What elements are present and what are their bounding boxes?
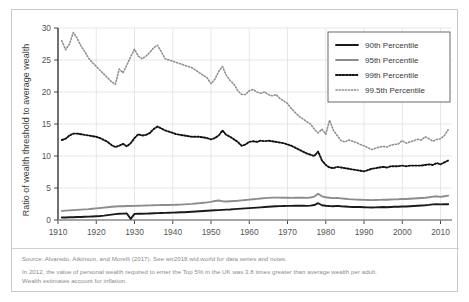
x-tick-label: 1960 bbox=[240, 227, 259, 237]
y-axis-ticks: 051015202530 bbox=[42, 23, 58, 225]
x-axis-ticks: 1910192019301940195019601970198019902000… bbox=[49, 220, 450, 237]
series-line-3 bbox=[62, 127, 448, 172]
x-tick-label: 2000 bbox=[393, 227, 412, 237]
footer-note-line-2: Wealth estimates account for inflation. bbox=[22, 276, 449, 286]
y-tick-label: 20 bbox=[42, 87, 52, 97]
x-tick-label: 1910 bbox=[49, 227, 68, 237]
footer-source: Source: Alvaredo, Atkinson, and Morelli … bbox=[22, 254, 449, 264]
chart-plot-area: 051015202530 191019201930194019501960197… bbox=[12, 10, 459, 250]
y-tick-label: 25 bbox=[42, 55, 52, 65]
x-tick-label: 1970 bbox=[278, 227, 297, 237]
footer-note-line-1: In 2012, the value of personal wealth re… bbox=[22, 267, 449, 277]
x-tick-label: 1980 bbox=[316, 227, 335, 237]
x-tick-label: 2010 bbox=[431, 227, 450, 237]
legend-label-2[interactable]: 95th Percentile bbox=[365, 56, 419, 65]
y-tick-label: 10 bbox=[42, 151, 52, 161]
legend-label-3[interactable]: 99th Percentile bbox=[365, 71, 419, 80]
legend-label-1[interactable]: 90th Percentile bbox=[365, 41, 419, 50]
y-tick-label: 5 bbox=[46, 183, 51, 193]
wealth-ratio-line-chart: 051015202530 191019201930194019501960197… bbox=[12, 10, 459, 250]
legend-label-4[interactable]: 99.5th Percentile bbox=[365, 86, 426, 95]
chart-legend[interactable]: 90th Percentile95th Percentile99th Perce… bbox=[328, 32, 450, 102]
figure-footer: Source: Alvaredo, Atkinson, and Morelli … bbox=[12, 248, 459, 292]
x-tick-label: 1920 bbox=[87, 227, 106, 237]
y-axis-label: Ratio of wealth threshold to average wea… bbox=[21, 44, 31, 217]
y-tick-label: 15 bbox=[42, 119, 52, 129]
x-tick-label: 1950 bbox=[202, 227, 221, 237]
x-tick-label: 1990 bbox=[355, 227, 374, 237]
y-tick-label: 30 bbox=[42, 23, 52, 33]
y-tick-label: 0 bbox=[46, 215, 51, 225]
x-tick-label: 1930 bbox=[125, 227, 144, 237]
x-tick-label: 1940 bbox=[163, 227, 182, 237]
figure-container: 051015202530 191019201930194019501960197… bbox=[11, 9, 458, 292]
